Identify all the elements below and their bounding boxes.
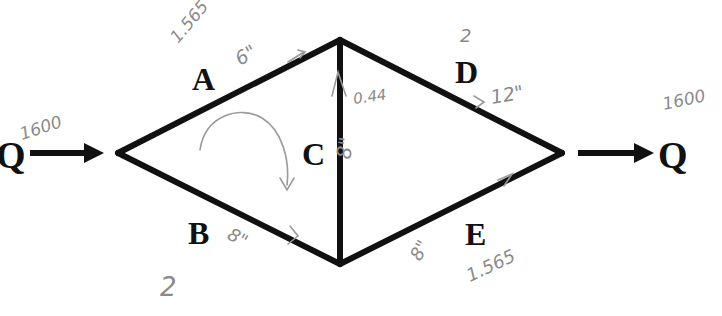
pipe-e-label: E [465, 216, 486, 252]
outflow-arrow-icon [578, 143, 654, 163]
pipe-e [340, 153, 562, 264]
pipe-e-diameter: 8" [405, 236, 433, 264]
pipe-a-label: A [192, 61, 215, 97]
pipe-d-label: D [455, 54, 478, 90]
pipe-d-diameter: 12" [489, 81, 525, 108]
outflow-value: 1600 [661, 85, 707, 114]
pipe-a-diameter: 6" [231, 40, 260, 69]
inflow-arrow-icon [30, 143, 104, 163]
pipe-c-flow: 0.44 [352, 85, 388, 107]
inflow-value: 1600 [17, 111, 64, 143]
pipe-a-flow: 1.565 [166, 0, 213, 47]
pipe-network-diagram: Q Q A B C D E 1600 1600 1.565 6" 8" 2 0.… [0, 0, 722, 316]
loop-direction-icon [200, 113, 294, 190]
pipe-c-label: C [302, 136, 325, 172]
pipe-c-diameter: 8" [331, 135, 358, 161]
pipe-b-loop-count: 2 [160, 272, 177, 302]
outflow-label: Q [658, 134, 688, 176]
pipe-b-diameter: 8" [224, 223, 252, 251]
pipe-b-label: B [188, 215, 209, 251]
pipe-d-loop-count: 2 [460, 25, 471, 46]
